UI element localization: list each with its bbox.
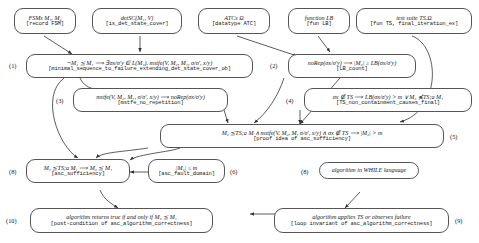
node-function-lb-reference: [fun LB] — [306, 21, 331, 27]
node-function-lb: function LB [fun LB] — [288, 8, 350, 34]
node-10-tag: (10) — [6, 217, 17, 224]
node-9-reference: [loop invariant of asc_algorithm_correct… — [291, 221, 433, 227]
node-detsc-reference: [is_det_state_cover] — [105, 21, 168, 27]
node-fsms: FSMs M₁, M₂ [record FSM] — [14, 8, 76, 34]
node-3-reference: [mstfe_no_repetition] — [117, 100, 183, 106]
node-3: mstfe(V, M₂, M₁, σ/σ′, x/y) ⟹ noRep(σx/σ… — [73, 88, 228, 112]
node-9-tag: (9) — [455, 217, 462, 224]
node-atcs-reference: [datatype ATC] — [212, 21, 256, 27]
node-8-statement: algorithm in WHILE language — [332, 167, 407, 174]
node-1: ¬M₂ ⪯ M₁ ⟹ ∃σx/σ′y ∈ L(M₂). mstfe(V, M₂,… — [26, 54, 253, 78]
node-5-tag: (5) — [450, 133, 457, 140]
node-1-reference: [minimal_sequence_to_failure_extending_d… — [48, 66, 231, 72]
node-10: algorithm returns true if and only if M₂… — [30, 208, 213, 233]
node-atcs: ATCs Ω [datatype ATC] — [198, 8, 270, 34]
node-detsc: detSC(M₁, V) [is_det_state_cover] — [92, 8, 182, 34]
node-7-reference: [asc_sufficiency] — [51, 171, 105, 177]
node-test-suite: test suite TS.Ω [fun TS, final_iteration… — [356, 8, 472, 34]
node-6: |M₂| ≤ m [asc_fault_domain] — [148, 159, 225, 183]
node-5: M₂ ⪯TS;a M ∧ mstfe(V, M₂, M, σ/σ′, x/y) … — [160, 124, 444, 148]
node-test-suite-reference: [fun TS, final_iteration_ex] — [370, 21, 458, 27]
node-8: algorithm in WHILE language — [319, 162, 419, 179]
node-10-reference: [post-condition of asc_algorithm_correct… — [51, 221, 193, 227]
node-4: σx ∉ TS ⟹ LB(σx/σ′y) > m ∨ M₂ ⋠TS;a M₁ [… — [304, 88, 472, 112]
diagram-edges — [0, 0, 479, 243]
proof-structure-diagram: FSMs M₁, M₂ [record FSM] detSC(M₁, V) [i… — [0, 0, 479, 243]
node-2: noRep(σx/σ′y) ⟹ |M₂| ≥ LB(σx/σ′y) [LB_co… — [288, 54, 416, 78]
node-8-tag: (8) — [301, 168, 308, 175]
node-2-reference: [LB_count] — [336, 66, 368, 72]
node-3-tag: (3) — [56, 97, 63, 104]
node-2-tag: (2) — [270, 62, 277, 69]
node-4-reference: [TS_non_containment_causes_final] — [336, 100, 440, 106]
node-6-reference: [asc_fault_domain] — [158, 171, 215, 177]
node-6-tag: (6) — [230, 168, 237, 175]
node-1-tag: (1) — [9, 62, 16, 69]
node-7-tag: (8) — [9, 168, 16, 175]
node-9: algorithm applies TS or observes failure… — [274, 208, 449, 233]
node-4-tag: (4) — [286, 97, 293, 104]
node-fsms-reference: [record FSM] — [26, 21, 64, 27]
node-7: M₂ ⪯TS;a M₁ ⟹ M₂ ⪯ M₁ [asc_sufficiency] — [26, 159, 130, 183]
node-5-reference: [proof idea of asc_sufficiency] — [253, 136, 351, 142]
